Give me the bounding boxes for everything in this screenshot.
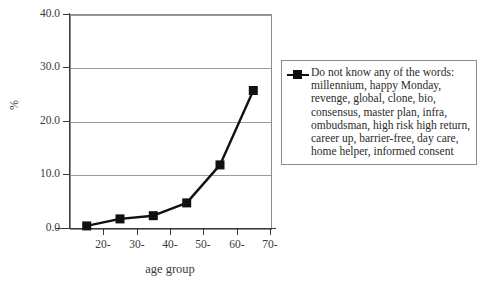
- x-tick-label-70: 70-: [250, 238, 290, 250]
- y-tick-10: [63, 174, 70, 175]
- legend-line-1: Do not know any of the words:: [311, 66, 470, 79]
- y-tick-20: [63, 121, 70, 122]
- legend-line-7: home helper, informed consent: [311, 145, 470, 158]
- legend-marker-square: [293, 70, 302, 79]
- x-tick-30: [137, 228, 138, 235]
- legend-line-4: consensus, master plan, infra,: [311, 106, 470, 119]
- legend-line-6: career up, barrier-free, day care,: [311, 132, 470, 145]
- x-tick-60: [237, 228, 238, 235]
- y-tick-label-30: 30.0: [18, 61, 60, 73]
- legend-line-2: millennium, happy Monday,: [311, 79, 470, 92]
- x-tick-50: [203, 228, 204, 235]
- gridline-30: [71, 68, 271, 69]
- x-tick-40: [170, 228, 171, 235]
- legend-line-3: revenge, global, clone, bio,: [311, 92, 470, 105]
- chart-figure: 40.0 30.0 20.0 10.0 0.0 20- 30- 40- 50- …: [0, 0, 489, 288]
- x-axis-title: age group: [70, 263, 270, 276]
- gridline-40: [71, 15, 271, 16]
- legend-label: Do not know any of the words: millennium…: [309, 66, 470, 158]
- y-tick-label-10: 10.0: [18, 168, 60, 180]
- y-tick-0: [63, 228, 70, 229]
- x-tick-20: [103, 228, 104, 235]
- legend: Do not know any of the words: millennium…: [281, 60, 477, 165]
- y-tick-40: [63, 14, 70, 15]
- y-tick-label-0: 0.0: [18, 222, 60, 234]
- y-tick-30: [63, 67, 70, 68]
- x-axis-line: [56, 228, 276, 229]
- plot-area: [70, 14, 272, 230]
- x-tick-70: [270, 228, 271, 235]
- legend-line-5: ombudsman, high risk high return,: [311, 119, 470, 132]
- legend-entry: Do not know any of the words: millennium…: [287, 66, 470, 158]
- y-axis-title: %: [8, 100, 20, 110]
- gridline-20: [71, 122, 271, 123]
- legend-marker-square-icon: [287, 68, 309, 81]
- gridline-10: [71, 175, 271, 176]
- y-tick-label-40: 40.0: [18, 8, 60, 20]
- y-tick-label-20: 20.0: [18, 115, 60, 127]
